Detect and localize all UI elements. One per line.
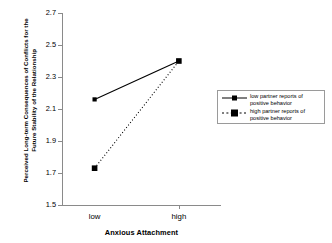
series-line-high-partner bbox=[95, 61, 179, 168]
data-point-marker bbox=[176, 58, 182, 64]
legend-label-high-partner: high partner reports of positive behavio… bbox=[250, 108, 324, 122]
data-point-marker bbox=[92, 97, 96, 101]
legend-item-low-partner: low partner reports of positive behavior bbox=[221, 93, 323, 108]
legend-sample-solid-line bbox=[221, 93, 248, 108]
legend-item-high-partner: high partner reports of positive behavio… bbox=[221, 108, 323, 123]
legend-sample-dotted-line bbox=[221, 108, 248, 123]
series-line-low-partner bbox=[95, 61, 179, 99]
data-point-marker bbox=[92, 165, 98, 171]
legend-label-low-partner: low partner reports of positive behavior bbox=[250, 93, 324, 107]
chart-figure: Perceived Long-term Consequences of Conf… bbox=[0, 0, 332, 243]
legend: low partner reports of positive behavior… bbox=[217, 90, 325, 124]
